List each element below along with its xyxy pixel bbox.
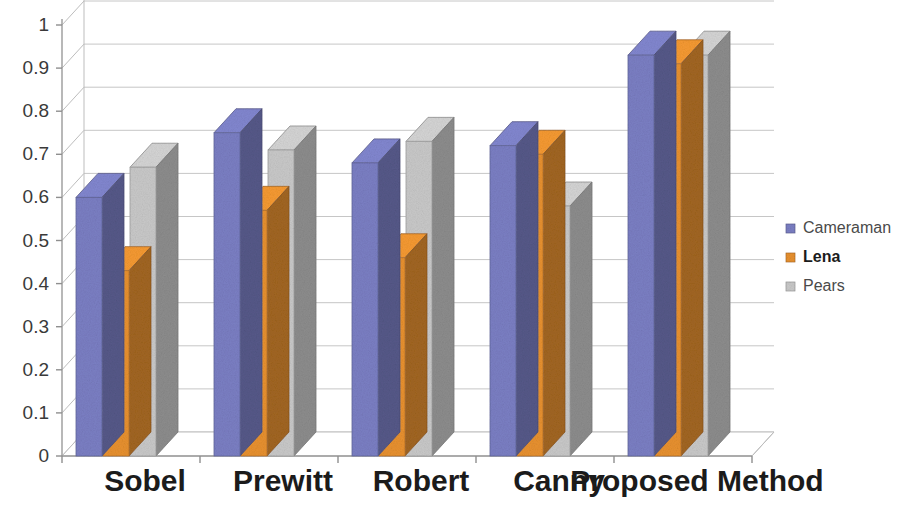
bars [76, 31, 730, 456]
legend-swatch-cameraman [786, 224, 795, 233]
y-axis-label-10: 1 [38, 14, 49, 35]
legend-item-cameraman[interactable]: Cameraman [786, 219, 891, 236]
legend-label-lena: Lena [803, 248, 840, 265]
y-axis-label-6: 0.6 [23, 186, 49, 207]
y-axis-label-5: 0.5 [23, 230, 49, 251]
legend: CameramanLenaPears [786, 219, 891, 294]
chart-canvas: 00.10.20.30.40.50.60.70.80.91 SobelPrewi… [0, 0, 904, 510]
bar-canny-cameraman [490, 122, 538, 456]
legend-label-cameraman: Cameraman [803, 219, 891, 236]
y-axis-label-3: 0.3 [23, 316, 49, 337]
x-axis-label-robert: Robert [373, 464, 470, 497]
bar-prewitt-cameraman [214, 109, 262, 456]
bar-sobel-cameraman [76, 173, 124, 456]
grid-depth-connector-7 [62, 130, 84, 154]
bar-chart: 00.10.20.30.40.50.60.70.80.91 SobelPrewi… [0, 0, 904, 510]
legend-swatch-pears [786, 282, 795, 291]
legend-swatch-lena [786, 253, 795, 262]
y-axis-tick-labels: 00.10.20.30.40.50.60.70.80.91 [23, 14, 50, 466]
bar-proposed-method-cameraman [628, 31, 676, 456]
legend-label-pears: Pears [803, 277, 845, 294]
legend-item-pears[interactable]: Pears [786, 277, 845, 294]
y-axis-label-8: 0.8 [23, 100, 49, 121]
y-axis-label-1: 0.1 [23, 402, 49, 423]
grid-depth-connector-8 [62, 87, 84, 111]
grid-depth-connector-10 [62, 1, 84, 25]
x-axis-tick-labels: SobelPrewittRobertCannyProposed Method [104, 464, 824, 497]
legend-item-lena[interactable]: Lena [786, 248, 840, 265]
x-axis-label-proposed-method: Proposed Method [570, 464, 823, 497]
x-axis-label-sobel: Sobel [104, 464, 186, 497]
y-axis-label-2: 0.2 [23, 359, 49, 380]
y-axis-label-0: 0 [38, 445, 49, 466]
bar-robert-cameraman [352, 139, 400, 456]
y-axis-label-7: 0.7 [23, 143, 49, 164]
grid-depth-connector-9 [62, 44, 84, 68]
y-axis-label-9: 0.9 [23, 57, 49, 78]
x-axis-label-prewitt: Prewitt [233, 464, 333, 497]
y-axis-label-4: 0.4 [23, 273, 50, 294]
